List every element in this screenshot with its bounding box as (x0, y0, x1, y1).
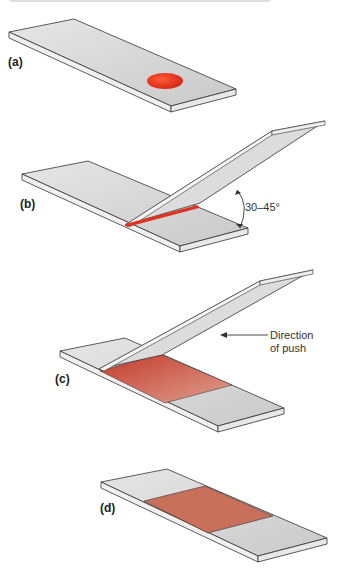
panel-label-d: (d) (100, 501, 115, 515)
panel-c: Direction of push (c) (55, 270, 313, 432)
panel-label-c: (c) (55, 372, 70, 386)
direction-label-line2: of push (270, 342, 306, 354)
direction-label-line1: Direction (270, 329, 313, 341)
panel-label-b: (b) (20, 197, 35, 211)
angle-label: 30–45° (245, 201, 280, 213)
panel-d: (d) (100, 469, 327, 562)
panel-b: 30–45° (b) (20, 121, 325, 252)
blood-drop (147, 73, 183, 89)
angle-arc-icon (237, 190, 244, 228)
panel-a: (a) (8, 19, 236, 112)
panel-label-a: (a) (8, 55, 23, 69)
blood-smear-diagram: (a) 30–45° (b) Direction of push (c (0, 0, 342, 588)
